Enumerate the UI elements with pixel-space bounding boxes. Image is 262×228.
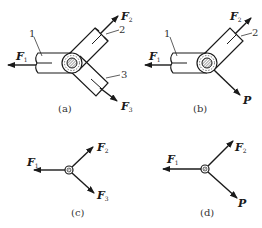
force-arrow-f3	[100, 88, 117, 101]
force-label-f2: F2	[96, 141, 109, 154]
force-diagram: 1 2 3 F1 F2 F3 (a) 1 2 F1 F2 P (b)	[0, 0, 262, 228]
part-label-1: 1	[164, 28, 170, 39]
force-label-f1: F1	[26, 156, 39, 169]
caption-a: (a)	[58, 103, 72, 114]
force-arrow-p	[214, 70, 240, 95]
node-icon	[201, 165, 209, 173]
caption-b: (b)	[193, 103, 207, 114]
force-label-f1: F1	[148, 50, 161, 63]
force-label-f2: F2	[120, 10, 133, 23]
force-label-f1: F1	[15, 50, 28, 63]
leader-3	[106, 75, 120, 78]
force-label-f2: F2	[229, 10, 242, 23]
part-label-1: 1	[29, 28, 35, 39]
force-label-p: P	[242, 94, 252, 107]
force-arrow-f3	[72, 173, 94, 193]
part-label-2: 2	[252, 27, 258, 38]
force-arrow-p	[208, 172, 237, 198]
part-label-3: 3	[121, 69, 127, 80]
panel-c: F1 F2 F3 (c)	[26, 141, 109, 218]
caption-d: (d)	[200, 207, 214, 218]
force-label-f3: F3	[96, 189, 109, 202]
force-label-p: P	[237, 197, 247, 210]
force-label-f3: F3	[120, 100, 133, 113]
node-icon	[65, 166, 73, 174]
leader-2	[241, 33, 252, 36]
leader-2	[106, 30, 119, 34]
part-label-2: 2	[119, 24, 125, 35]
panel-b: 1 2 F1 F2 P (b)	[145, 10, 258, 114]
caption-c: (c)	[71, 207, 85, 218]
force-label-f2: F2	[234, 141, 247, 154]
panel-d: F1 F2 P (d)	[163, 141, 247, 218]
panel-a: 1 2 3 F1 F2 F3 (a)	[8, 10, 133, 114]
force-label-f1: F1	[166, 153, 179, 166]
force-arrow-f2	[208, 141, 233, 166]
pin-joint	[62, 53, 82, 73]
force-arrow-f2	[72, 147, 93, 167]
